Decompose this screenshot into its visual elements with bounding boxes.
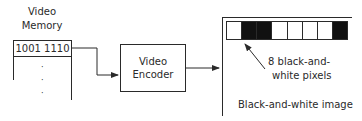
video-encoder-box: Video Encoder xyxy=(120,44,186,92)
pixel-4 xyxy=(272,22,287,39)
pixel-annotation-line2: white pixels xyxy=(272,70,331,82)
pixel-pointer-arrow xyxy=(245,44,265,69)
memory-cell: 1001 1110 xyxy=(13,40,72,57)
pixel-3 xyxy=(257,22,272,39)
pixel-8 xyxy=(333,22,347,39)
memory-title-line2: Memory xyxy=(14,20,70,32)
pixel-7 xyxy=(318,22,333,39)
pixel-6 xyxy=(303,22,318,39)
image-caption: Black-and-white image xyxy=(238,99,353,111)
pixel-2 xyxy=(242,22,257,39)
pixel-annotation-line1: 8 black-and- xyxy=(268,56,330,68)
memory-title-line1: Video xyxy=(18,6,66,18)
memory-to-encoder-arrow xyxy=(72,48,118,75)
pixel-5 xyxy=(288,22,303,39)
pixel-1 xyxy=(227,22,242,39)
memory-ellipsis-2: · xyxy=(41,75,44,87)
encoder-label-line1: Video xyxy=(139,55,167,68)
memory-ellipsis-1: · xyxy=(41,62,44,74)
pixel-strip xyxy=(226,21,348,40)
encoder-label-line2: Encoder xyxy=(133,68,174,81)
memory-ellipsis-3: · xyxy=(41,88,44,100)
